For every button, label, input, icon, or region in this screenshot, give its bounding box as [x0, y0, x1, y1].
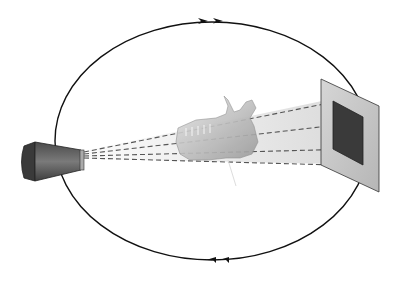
detector-panel: [321, 79, 379, 192]
xray-source: [22, 142, 85, 181]
arrow-right-icon: [198, 18, 223, 24]
mandible-object: [176, 96, 258, 186]
ct-scan-diagram: [0, 0, 399, 284]
